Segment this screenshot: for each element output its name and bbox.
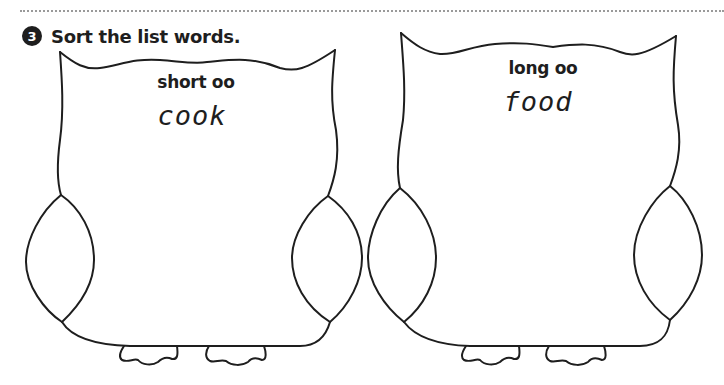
owl-long-oo-outline [368,33,702,365]
sorted-word-long-oo[interactable]: food [458,86,618,117]
category-label-short-oo: short oo [116,72,276,92]
category-label-long-oo: long oo [463,58,623,78]
owl-short-oo-outline [26,50,362,365]
sorted-word-short-oo[interactable]: cook [112,100,272,131]
